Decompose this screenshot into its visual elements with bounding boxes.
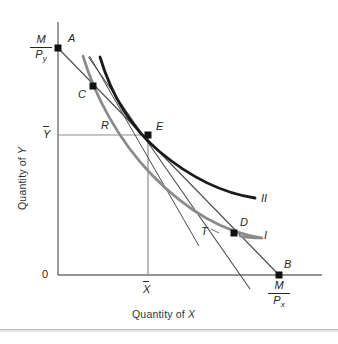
indifference-curve-ii <box>100 57 255 198</box>
origin-label: 0 <box>42 268 48 280</box>
point-label-b: B <box>284 259 291 270</box>
x-intercept-numerator: M <box>268 280 290 292</box>
x-axis-title-prefix: Quantity of <box>132 308 188 320</box>
y-intercept-label: M Py <box>30 34 52 63</box>
y-intercept-denominator: Py <box>30 49 52 64</box>
point-a <box>55 45 62 52</box>
curve-label-ii: II <box>261 193 267 204</box>
point-e <box>145 132 152 139</box>
y-tick-label: Y <box>43 128 50 140</box>
x-intercept-denominator-subscript: x <box>281 300 285 309</box>
point-c <box>90 83 97 90</box>
point-label-d: D <box>240 217 248 228</box>
x-tick-label: X <box>143 283 150 295</box>
point-label-e: E <box>156 121 163 132</box>
y-axis-title-variable: Y <box>16 147 28 154</box>
y-intercept-denominator-subscript: y <box>43 54 47 63</box>
point-label-t: T <box>201 226 208 237</box>
y-axis-title-prefix: Quantity of <box>16 154 28 210</box>
point-b <box>276 272 283 279</box>
curve-label-i: I <box>264 230 267 241</box>
t-pointer <box>211 229 219 233</box>
figure-container: A C E D B R T II I 0 M Py M Px Y X Quant… <box>0 0 338 344</box>
footer-divider <box>0 329 338 332</box>
point-label-a: A <box>68 33 75 44</box>
x-intercept-denominator: Px <box>268 295 290 310</box>
point-label-c: C <box>78 89 86 100</box>
x-axis-title-variable: X <box>188 308 195 320</box>
y-tick-overbar: Y <box>43 128 50 140</box>
y-intercept-numerator: M <box>30 34 52 46</box>
tangent-line-at-d <box>90 56 200 246</box>
y-axis-title: Quantity of Y <box>16 147 28 210</box>
point-label-r: R <box>101 120 109 131</box>
x-intercept-label: M Px <box>268 280 290 309</box>
point-d <box>231 230 238 237</box>
x-axis-title: Quantity of X <box>132 308 195 320</box>
x-tick-overbar: X <box>143 283 150 295</box>
